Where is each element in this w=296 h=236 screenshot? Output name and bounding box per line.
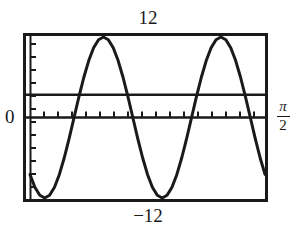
plot-canvas [0, 0, 296, 236]
graph-figure: 12 −12 0 π 2 [0, 0, 296, 236]
